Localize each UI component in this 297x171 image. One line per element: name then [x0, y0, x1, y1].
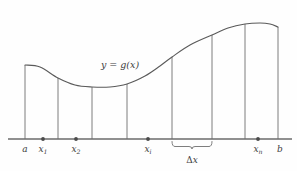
axis-label-x1: x1 [38, 144, 47, 155]
axis-label-subscript: 2 [76, 148, 81, 155]
delta-x-variable: x [193, 155, 198, 165]
axis-tick-labels-group: ax1x2xixnb [22, 144, 283, 155]
axis-label-base: b [277, 144, 283, 154]
axis-label-subscript: n [259, 148, 263, 155]
function-curve [25, 23, 278, 87]
delta-x-label: Δx [186, 155, 198, 165]
dot-xi [146, 137, 150, 141]
axis-label-a: a [22, 144, 27, 154]
brace-group: Δx [172, 142, 212, 166]
curve-equation-label: y = g(x) [100, 59, 140, 70]
dot-x1 [41, 137, 45, 141]
delta-x-brace [172, 142, 212, 150]
partition-lines-group [25, 24, 278, 139]
axis-label-subscript: 1 [44, 148, 48, 155]
axis-label-xi: xi [144, 144, 151, 155]
axis-label-base: a [22, 144, 27, 154]
riemann-sum-figure: Δx y = g(x) ax1x2xixnb [0, 0, 297, 171]
axis-label-subscript: i [150, 148, 152, 155]
dot-x2 [74, 137, 78, 141]
dot-xn [256, 137, 260, 141]
axis-label-b: b [277, 144, 283, 154]
axis-label-x2: x2 [71, 144, 80, 155]
axis-label-xn: xn [253, 144, 262, 155]
riemann-sum-diagram: Δx y = g(x) ax1x2xixnb [0, 0, 297, 171]
